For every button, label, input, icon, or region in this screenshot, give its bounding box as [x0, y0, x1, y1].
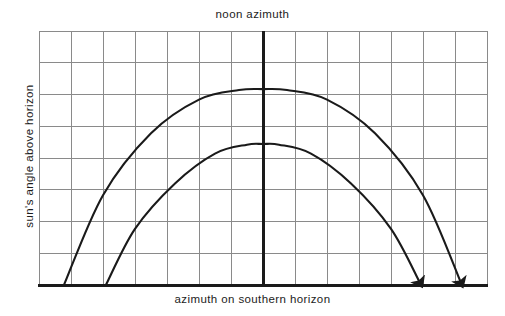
x-axis-label: azimuth on southern horizon: [0, 293, 505, 305]
noon-azimuth-label: noon azimuth: [0, 8, 505, 20]
sun-path-diagram: noon azimuth sun's angle above horizon a…: [0, 0, 505, 316]
y-axis-label: sun's angle above horizon: [23, 56, 35, 256]
plot-area: [0, 0, 505, 316]
